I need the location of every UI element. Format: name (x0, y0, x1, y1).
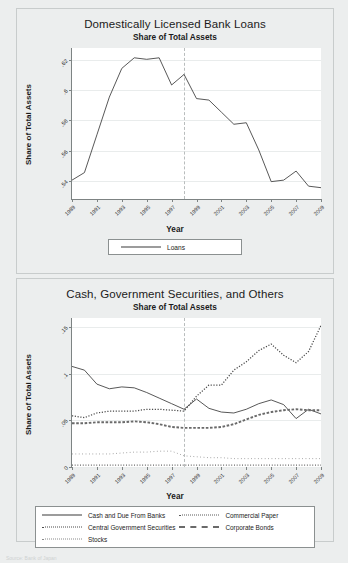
legend-item[interactable]: Stocks (42, 535, 175, 543)
y-axis-tick-label: .05 (59, 418, 69, 428)
legend-item-label: Commercial Paper (225, 512, 278, 519)
x-axis-tick-label: 1995 (135, 472, 151, 488)
x-axis-tick-label: 1989 (61, 204, 77, 220)
legend-item[interactable]: Central Government Securities (42, 523, 175, 531)
x-axis-tick (221, 199, 222, 202)
x-axis-tick-label: 2005 (260, 204, 276, 220)
figure-cash-gov-others: Cash, Government Securities, and Others … (16, 278, 334, 542)
x-axis-tick-label: 2009 (310, 472, 326, 488)
legend-item-label: Corporate Bonds (225, 524, 273, 531)
x-axis-tick-label: 1999 (185, 472, 201, 488)
x-axis-tick (72, 467, 73, 470)
x-axis-tick (321, 199, 322, 202)
series-layer (72, 48, 321, 199)
legend-key-icon (42, 535, 82, 543)
legend-item-label: Stocks (88, 536, 107, 543)
series-line-corporate-bonds (72, 409, 321, 428)
legend-top: Loans (108, 239, 242, 255)
legend-key-icon (42, 523, 82, 531)
x-axis-tick (97, 467, 98, 470)
x-axis-tick (172, 199, 173, 202)
x-axis-tick (97, 199, 98, 202)
x-axis-tick (271, 467, 272, 470)
x-axis-tick-label: 1999 (185, 204, 201, 220)
page-background: Domestically Licensed Bank Loans Share o… (0, 0, 348, 563)
legend-item[interactable]: Cash and Due From Banks (42, 511, 175, 519)
figure-title-bottom: Cash, Government Securities, and Others (17, 288, 333, 301)
x-axis-tick (147, 467, 148, 470)
x-axis-tick (197, 467, 198, 470)
x-axis-tick-label: 1997 (160, 204, 176, 220)
y-axis-label-top: Share of Total Assets (21, 48, 35, 200)
y-axis-tick-label: .15 (59, 325, 69, 335)
y-axis-tick-label: 0 (63, 465, 69, 471)
series-line-loans (72, 58, 321, 188)
x-axis-tick-label: 1991 (86, 472, 102, 488)
x-axis-tick (321, 467, 322, 470)
figure-subtitle-bottom: Share of Total Assets (17, 302, 333, 312)
x-axis-tick-label: 2007 (285, 204, 301, 220)
x-axis-label-top: Year (17, 225, 333, 234)
legend-key-icon (121, 243, 161, 251)
x-axis-tick-label: 2003 (235, 204, 251, 220)
x-axis-tick (147, 199, 148, 202)
x-axis-tick (246, 199, 247, 202)
y-axis-tick-label: .1 (62, 372, 70, 380)
legend-bottom: Cash and Due From BanksCommercial PaperC… (35, 506, 315, 548)
x-axis-tick (296, 467, 297, 470)
legend-key-icon (179, 511, 219, 519)
x-axis-label-bottom: Year (17, 492, 333, 501)
x-axis-tick-label: 1991 (86, 204, 102, 220)
x-axis-tick-label: 2001 (210, 204, 226, 220)
x-axis-tick-label: 1989 (61, 472, 77, 488)
x-axis-tick (72, 199, 73, 202)
legend-key-icon (42, 511, 82, 519)
x-axis-tick-label: 2003 (235, 472, 251, 488)
legend-item[interactable]: Corporate Bonds (179, 523, 308, 531)
figure-title-top: Domestically Licensed Bank Loans (17, 18, 333, 31)
x-axis-tick-label: 2005 (260, 472, 276, 488)
x-axis-tick-label: 1997 (160, 472, 176, 488)
series-line-stocks (72, 451, 321, 458)
y-axis-label-bottom: Share of Total Assets (21, 318, 35, 470)
y-axis-tick-label: .56 (59, 149, 69, 159)
y-axis-tick-label: .62 (59, 58, 69, 68)
x-axis-tick-label: 1993 (110, 472, 126, 488)
x-axis-tick-label: 2001 (210, 472, 226, 488)
x-axis-tick-label: 2007 (285, 472, 301, 488)
legend-item[interactable]: Loans (109, 243, 241, 251)
series-layer (72, 318, 321, 467)
plot-wrap-top: Share of Total Assets .54.56.58.6.621989… (25, 48, 325, 200)
x-axis-tick-label: 1993 (110, 204, 126, 220)
legend-item-label: Central Government Securities (88, 524, 175, 531)
series-line-central-government-securities (72, 325, 321, 417)
y-axis-tick-label: .6 (62, 88, 70, 96)
x-axis-tick (296, 199, 297, 202)
x-axis-tick (197, 199, 198, 202)
legend-item[interactable]: Commercial Paper (179, 511, 308, 519)
figure-loans: Domestically Licensed Bank Loans Share o… (16, 8, 334, 274)
x-axis-tick (221, 467, 222, 470)
legend-bottom-grid: Cash and Due From BanksCommercial PaperC… (42, 511, 308, 543)
y-axis-tick-label: .58 (59, 118, 69, 128)
x-axis-tick (122, 199, 123, 202)
legend-key-icon (179, 523, 219, 531)
x-axis-tick-label: 2009 (310, 204, 326, 220)
x-axis-tick (271, 199, 272, 202)
source-note: Source: Bank of Japan (6, 555, 57, 561)
plot-area-loans: .54.56.58.6.6219891991199319951997199920… (71, 48, 321, 200)
figure-subtitle-top: Share of Total Assets (17, 32, 333, 42)
legend-item-label: Cash and Due From Banks (88, 512, 165, 519)
x-axis-tick (172, 467, 173, 470)
plot-area-cash-gov-others: 0.05.1.151989199119931995199719992001200… (71, 318, 321, 468)
legend-item-label: Loans (167, 244, 185, 251)
y-axis-tick-label: .54 (59, 179, 69, 189)
x-axis-tick-label: 1995 (135, 204, 151, 220)
x-axis-tick (122, 467, 123, 470)
x-axis-tick (246, 467, 247, 470)
plot-wrap-bottom: Share of Total Assets 0.05.1.15198919911… (25, 318, 325, 468)
legend-top-body: Loans (109, 243, 241, 251)
